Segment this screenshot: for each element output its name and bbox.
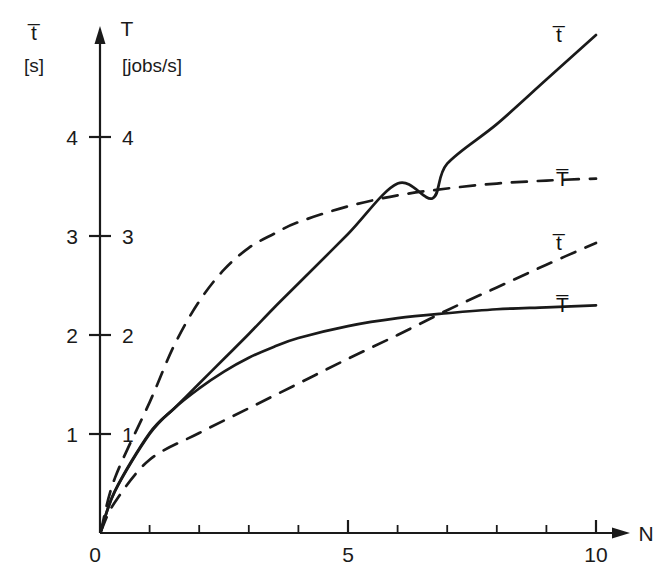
y-left-axis-unit: [s] <box>24 55 44 76</box>
curve-t̅-solid-0 <box>101 35 596 531</box>
y-right-axis-variable: T <box>121 17 134 40</box>
curve-T̅-solid-3 <box>101 305 596 531</box>
y-left-tick-label-2: 2 <box>66 324 78 347</box>
y-right-axis-unit: [jobs/s] <box>122 55 182 76</box>
y-axis-arrowhead <box>95 26 106 44</box>
curve-T̅-dashed-1 <box>101 179 596 531</box>
y-left-tick-label-3: 3 <box>66 225 78 248</box>
y-right-tick-label-3: 3 <box>122 225 134 248</box>
y-right-tick-label-2: 2 <box>122 324 134 347</box>
x-tick-label-10: 10 <box>584 543 607 566</box>
y-left-tick-label-4: 4 <box>66 126 78 149</box>
curve-label-T-solid: T̅ <box>555 293 569 316</box>
x-axis-variable: N <box>638 522 653 545</box>
y-left-axis-variable: t̅ <box>27 21 41 44</box>
curve-label-T-dashed: T̅ <box>555 167 569 190</box>
chart-curves <box>101 35 596 531</box>
y-left-tick-labels: 1234 <box>66 126 78 446</box>
x-axis-arrowhead <box>612 528 630 539</box>
y-right-tick-label-1: 1 <box>122 423 134 446</box>
x-tick-label-5: 5 <box>342 543 354 566</box>
chart-figure: 1234 1234 510 0 t̅ [s] T [jobs/s] N t̅ T… <box>0 0 668 582</box>
x-axis-tick-labels: 510 <box>342 543 608 566</box>
curve-label-t-dashed: t̅ <box>552 231 566 254</box>
x-axis-origin-label: 0 <box>89 543 101 566</box>
x-axis-ticks <box>150 520 596 533</box>
y-left-axis-label-group: t̅ [s] <box>24 21 44 76</box>
y-right-axis-label-group: T [jobs/s] <box>121 17 183 76</box>
y-right-tick-labels: 1234 <box>122 126 134 446</box>
y-right-tick-label-4: 4 <box>122 126 134 149</box>
curve-t̅-dashed-2 <box>101 243 596 531</box>
y-left-tick-label-1: 1 <box>66 423 78 446</box>
axis-lines <box>95 26 631 539</box>
curve-label-t-solid: t̅ <box>552 23 566 46</box>
